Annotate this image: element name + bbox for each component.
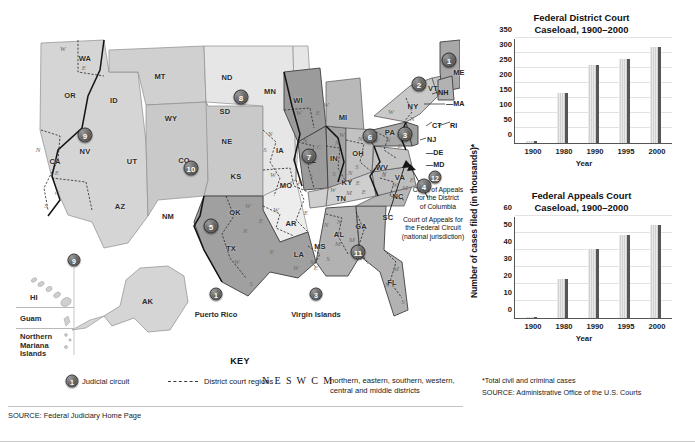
- bar-district-1980: [557, 93, 568, 143]
- circuit-badge-3[interactable]: 3: [398, 127, 413, 142]
- gridline: [515, 52, 672, 53]
- district-letter-e: E: [316, 109, 320, 117]
- district-letter-m: M: [393, 265, 399, 273]
- state-label-or: OR: [64, 91, 76, 100]
- district-letter-e: E: [55, 169, 59, 177]
- state-label-mo: MO: [280, 181, 292, 190]
- circuit-badge-10[interactable]: 10: [184, 161, 199, 176]
- callout-dc-circuit: Court of Appeals for the District of Col…: [402, 186, 474, 211]
- state-label-ks: KS: [231, 172, 242, 181]
- xtick-label: 2000: [649, 147, 666, 156]
- state-label-mn: MN: [264, 87, 276, 96]
- state-label-vt: VT: [428, 84, 438, 93]
- key-neswcm-description: northern, eastern, southern, western, ce…: [330, 376, 464, 395]
- charts-panel: Federal District Court Caseload, 1900–20…: [468, 0, 695, 442]
- state-label-ne: NE: [222, 137, 233, 146]
- district-letter-n: N: [324, 221, 329, 229]
- ytick-label: 350: [499, 25, 515, 34]
- inset-label-hi: HI: [30, 294, 38, 303]
- state-tick-ri: RI: [450, 121, 457, 130]
- district-letter-n: N: [36, 146, 41, 154]
- district-letter-e: E: [362, 188, 366, 196]
- state-tick-ma: —MA: [446, 99, 464, 108]
- inset-divider-hi: [16, 307, 74, 308]
- district-letter-s: S: [355, 163, 359, 171]
- bar-district-1900: [526, 141, 537, 143]
- ytick-label: 100: [499, 100, 515, 109]
- inset-divider-guam: [16, 328, 74, 329]
- state-tick-de: —DE: [426, 148, 443, 157]
- district-letter-e: E: [398, 142, 402, 150]
- ytick-label: 50: [504, 220, 515, 229]
- state-label-wi: WI: [293, 96, 303, 105]
- circuit-badge-1-pr[interactable]: 1: [210, 288, 223, 301]
- xaxis-label-district: Year: [484, 159, 684, 168]
- state-label-ok: OK: [229, 208, 241, 217]
- circuit-badge-4[interactable]: 4: [417, 179, 432, 194]
- state-label-ia: IA: [276, 146, 284, 155]
- district-letter-e: E: [298, 178, 302, 186]
- state-tick-nh: NH: [438, 88, 448, 97]
- state-label-oh: OH: [352, 149, 364, 158]
- district-letter-n: N: [410, 115, 415, 123]
- us-map: HI Guam Northern Mariana Islands AK 9 1 …: [8, 10, 460, 355]
- inset-label-guam: Guam: [20, 315, 42, 324]
- state-label-nc: NC: [392, 192, 403, 201]
- state-label-tx: TX: [226, 244, 236, 253]
- bar-district-1995: [619, 59, 630, 143]
- ytick-label: 60: [504, 203, 515, 212]
- xtick-label: 1995: [618, 147, 635, 156]
- circuit-badge-6[interactable]: 6: [363, 129, 378, 144]
- district-letter-w: W: [296, 109, 302, 117]
- circuit-badge-9-pacific[interactable]: 9: [68, 254, 81, 267]
- state-label-nd: ND: [221, 73, 232, 82]
- district-letter-n: N: [303, 137, 308, 145]
- district-letter-n: N: [335, 139, 340, 147]
- map-key: KEY 1 Judicial circuit District court re…: [8, 356, 460, 404]
- district-letter-s: S: [401, 298, 405, 306]
- circuit-badge-5[interactable]: 5: [204, 219, 219, 234]
- district-letter-w: W: [388, 108, 394, 116]
- ytick-label: 150: [499, 85, 515, 94]
- district-letter-n: N: [386, 136, 391, 144]
- xtick-label: 1995: [618, 322, 635, 331]
- xtick-label: 1900: [525, 147, 542, 156]
- plot-area-district: 0 50 100 150 200 250 300 350: [514, 39, 672, 144]
- state-label-ms: MS: [314, 242, 326, 251]
- ytick-label: 20: [504, 271, 515, 280]
- district-letter-m: M: [402, 184, 408, 192]
- circuit-badge-3-vi[interactable]: 3: [310, 288, 323, 301]
- district-letter-s: S: [309, 172, 313, 180]
- state-label-in: IN: [330, 154, 338, 163]
- gridline: [515, 37, 672, 38]
- district-letter-e: E: [356, 179, 360, 187]
- state-label-ca: CA: [49, 157, 60, 166]
- district-letter-s: S: [249, 280, 253, 288]
- bar-appeals-1980: [557, 279, 568, 318]
- circuit-badge-7[interactable]: 7: [302, 149, 317, 164]
- district-letter-w: W: [392, 181, 398, 189]
- state-label-al: AL: [334, 230, 344, 239]
- charts-footnote: *Total civil and criminal cases: [482, 376, 575, 385]
- ytick-label: 0: [508, 130, 515, 139]
- gridline: [515, 215, 672, 216]
- circuit-badge-11[interactable]: 11: [351, 245, 366, 260]
- key-judicial-circuit-label: Judicial circuit: [82, 377, 129, 386]
- district-letter-m: M: [335, 240, 341, 248]
- inset-label-nmi: Northern Mariana Islands: [20, 333, 52, 359]
- circuit-badge-1[interactable]: 1: [442, 53, 457, 68]
- xtick-label: 1980: [556, 147, 573, 156]
- bar-appeals-1995: [619, 235, 630, 318]
- bar-appeals-2000: [650, 225, 661, 319]
- circuit-badge-2[interactable]: 2: [412, 77, 427, 92]
- chart-title-appeals: Federal Appeals Court Caseload, 1900–200…: [468, 190, 695, 213]
- state-label-ut: UT: [127, 157, 137, 166]
- xtick-label: 2000: [649, 322, 666, 331]
- district-letter-n: N: [337, 218, 342, 226]
- circuit-badge-8[interactable]: 8: [234, 90, 249, 105]
- state-label-az: AZ: [115, 202, 125, 211]
- ytick-label: 10: [504, 288, 515, 297]
- bar-district-1990: [588, 65, 599, 143]
- circuit-badge-9[interactable]: 9: [78, 128, 93, 143]
- district-letter-w: W: [293, 264, 299, 272]
